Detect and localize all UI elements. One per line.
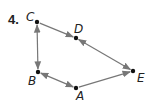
vertices-group: CDEBA (26, 10, 145, 103)
vertex-point-E (131, 69, 135, 73)
edge-C-B (37, 25, 38, 69)
vertex-label-E: E (137, 71, 145, 85)
vertex-label-D: D (74, 22, 83, 36)
vertex-point-B (36, 70, 40, 74)
graph-canvas: 4. CDEBA (0, 0, 151, 103)
edge-C-D (40, 23, 73, 37)
problem-number: 4. (8, 12, 19, 27)
edge-B-A (41, 73, 73, 87)
edge-D-E (79, 40, 131, 70)
edges-group (37, 23, 130, 87)
vertex-label-C: C (26, 10, 35, 24)
vertex-label-A: A (75, 89, 84, 103)
directed-graph-figure: 4. CDEBA (0, 0, 151, 103)
vertex-label-B: B (28, 74, 36, 88)
edge-A-E (79, 72, 130, 87)
vertex-point-C (35, 20, 39, 24)
vertex-point-D (74, 36, 78, 40)
